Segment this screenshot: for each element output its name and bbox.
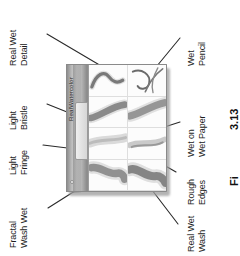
brush-sample-light-bristle[interactable] — [89, 97, 128, 129]
real-watercolor-panel[interactable]: RealWatercolor — [66, 64, 170, 196]
brush-sample-fractal-wash-wet[interactable] — [89, 160, 128, 192]
brush-sample-rough-edges[interactable] — [128, 128, 167, 160]
callout-label-light-fringe: Light Fringe — [8, 150, 29, 175]
callout-label-real-wet-detail: Real Wet Detail — [8, 30, 29, 66]
brush-sample-real-wet-detail[interactable] — [89, 65, 128, 97]
callout-label-fractal-wash-wet: Fractal Wash Wet — [8, 208, 29, 248]
callout-label-wet-pencil: Wet Pencil — [186, 42, 207, 66]
callout-label-light-bristle: Light Bristle — [8, 106, 29, 130]
brush-sample-wet-pencil[interactable] — [128, 65, 167, 97]
caption-prefix: Fi — [228, 176, 240, 186]
brush-sample-grid — [88, 64, 167, 192]
brush-sample-light-fringe[interactable] — [89, 128, 128, 160]
callout-label-wet-on-wet-paper: Wet on Wet Paper — [186, 116, 207, 157]
brush-sample-wet-on-wet-paper[interactable] — [128, 97, 167, 129]
callout-label-rough-edges: Rough Edges — [186, 179, 207, 205]
callout-label-real-wet-wash: Real Wet Wash — [186, 216, 207, 252]
figure-real-watercolor-brushes: RealWatercolor — [0, 0, 240, 256]
brush-sample-real-wet-wash[interactable] — [128, 160, 167, 192]
resize-grip-dot-icon[interactable] — [70, 180, 74, 184]
panel-tab-realwatercolor[interactable] — [75, 102, 88, 160]
caption-number: 3.13 — [228, 109, 240, 130]
panel-tab-label: RealWatercolor — [67, 77, 74, 121]
